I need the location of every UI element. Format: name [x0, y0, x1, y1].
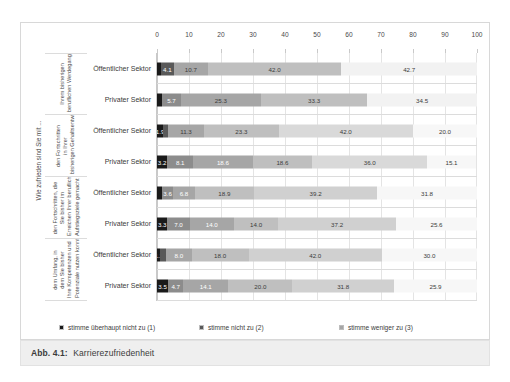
sector-label: Privater Sektor [87, 146, 157, 177]
bar-segment[interactable]: 34.5 [367, 93, 477, 106]
bar-segment[interactable]: 31.8 [292, 279, 394, 292]
bar-segment[interactable]: 14.0 [190, 217, 234, 230]
bar-segment[interactable]: 25.6 [396, 217, 477, 230]
x-axis-tick-label: 50 [313, 31, 320, 38]
x-axis-tick-label: 90 [441, 31, 448, 38]
x-axis: 0102030405060708090100 [157, 29, 477, 53]
bar-segment[interactable]: 3.5 [157, 279, 168, 292]
bar-segment[interactable]: 37.2 [278, 217, 396, 230]
bar-segment[interactable]: 6.8 [173, 186, 194, 199]
table-row: 1.911.323.342.020.0 [157, 115, 477, 146]
stacked-bar[interactable]: 3.28.118.618.636.015.1 [157, 155, 477, 168]
bar-segment[interactable]: 10.7 [174, 62, 208, 75]
x-axis-tick-label: 70 [377, 31, 384, 38]
stacked-bar[interactable]: 5.725.333.334.5 [157, 93, 477, 106]
bar-segment[interactable]: 31.8 [377, 186, 477, 199]
bar-segment[interactable]: 33.3 [261, 93, 367, 106]
stacked-bar[interactable]: 1.911.323.342.020.0 [157, 124, 477, 137]
x-axis-tick-label: 20 [217, 31, 224, 38]
x-axis-tick-label: 30 [249, 31, 256, 38]
bar-segment[interactable]: 42.7 [341, 62, 477, 75]
legend-label: stimme überhaupt nicht zu (1) [68, 324, 155, 331]
bar-segment[interactable]: 14.0 [234, 217, 278, 230]
category-label: dem Umfang, indem Sie bisherIhre Kompete… [45, 239, 87, 301]
bar-segment[interactable]: 3.2 [157, 155, 167, 168]
category-label: den Fortschrittenin Ihrerbisherigen Geha… [45, 115, 87, 177]
table-row: 3.28.118.618.636.015.1 [157, 146, 477, 177]
bar-segment[interactable]: 3.3 [157, 217, 167, 230]
plot-area: 0102030405060708090100 4.110.742.042.75.… [157, 29, 477, 301]
category-label-text: dem Umfang, indem Sie bisherIhre Kompete… [52, 242, 81, 298]
bar-segment[interactable]: 42.0 [249, 248, 382, 261]
sector-label: Öffentlicher Sektor [87, 177, 157, 208]
bar-segment[interactable]: 36.0 [312, 155, 427, 168]
bar-segment[interactable]: 39.2 [254, 186, 377, 199]
legend-item[interactable]: stimme nicht zu (2) [199, 319, 339, 336]
table-row: 3.66.818.939.231.8 [157, 177, 477, 208]
bar-segment[interactable]: 8.0 [166, 248, 191, 261]
figure-page: Wie zufrieden sind Sie mit ... Ihrem bis… [0, 0, 510, 382]
bar-segment[interactable]: 18.9 [195, 186, 254, 199]
legend-swatch [59, 325, 64, 330]
sector-label: Privater Sektor [87, 84, 157, 115]
table-row: 3.37.014.014.037.225.6 [157, 208, 477, 239]
legend-label: stimme weniger zu (3) [348, 324, 413, 331]
bar-segment[interactable]: 23.3 [204, 124, 279, 137]
category-label-text: den Fortschritten, dieSie bisher imErrei… [52, 180, 81, 236]
bar-segment[interactable]: 4.1 [161, 62, 174, 75]
legend-item[interactable]: stimme überhaupt nicht zu (1) [59, 319, 199, 336]
x-axis-tick-label: 100 [471, 31, 482, 38]
sector-label: Öffentlicher Sektor [87, 239, 157, 270]
legend-swatch [199, 325, 204, 330]
stacked-bar-chart: Wie zufrieden sind Sie mit ... Ihrem bis… [29, 29, 481, 301]
x-axis-tick-label: 80 [409, 31, 416, 38]
table-row: 1.18.018.042.030.0 [157, 239, 477, 270]
bar-segment[interactable]: 15.1 [427, 155, 475, 168]
bar-segment[interactable]: 20.0 [228, 279, 292, 292]
bar-segment[interactable]: 18.6 [193, 155, 253, 168]
sector-label: Öffentlicher Sektor [87, 53, 157, 84]
bar-segment[interactable]: 18.0 [192, 248, 249, 261]
category-label-column: Ihrem bisherigenberuflichen Werdegang?de… [45, 53, 87, 301]
stacked-bar[interactable]: 4.110.742.042.7 [157, 62, 477, 75]
stacked-bar[interactable]: 3.54.714.120.031.825.9 [157, 279, 477, 292]
legend-item[interactable]: stimme weniger zu (3) [339, 319, 479, 336]
stacked-bar[interactable]: 3.66.818.939.231.8 [157, 186, 477, 199]
bar-segment[interactable]: 5.7 [162, 93, 180, 106]
table-row: 3.54.714.120.031.825.9 [157, 270, 477, 301]
bar-segment[interactable]: 14.1 [183, 279, 228, 292]
sector-label-column: Öffentlicher SektorPrivater SektorÖffent… [87, 53, 157, 301]
category-label-text: Ihrem bisherigenberuflichen Werdegang? [59, 56, 73, 112]
x-axis-tick-mark [477, 49, 478, 53]
caption-prefix: Abb. 4.1: [31, 348, 68, 358]
x-axis-tick-label: 0 [155, 31, 159, 38]
caption-title: Karrierezufriedenheit [73, 348, 154, 358]
bar-segment[interactable]: 11.3 [168, 124, 204, 137]
bar-segment[interactable]: 20.0 [413, 124, 477, 137]
bar-segment[interactable]: 30.0 [382, 248, 477, 261]
sector-label: Öffentlicher Sektor [87, 115, 157, 146]
x-axis-tick-label: 10 [185, 31, 192, 38]
sector-label: Privater Sektor [87, 208, 157, 239]
caption-text: Abb. 4.1: Karrierezufriedenheit [31, 348, 154, 358]
bar-segment[interactable]: 7.0 [167, 217, 189, 230]
bar-rows: 4.110.742.042.75.725.333.334.51.911.323.… [157, 53, 477, 301]
bar-segment[interactable]: 8.1 [167, 155, 193, 168]
sector-label: Privater Sektor [87, 270, 157, 301]
bar-segment[interactable]: 3.6 [162, 186, 173, 199]
x-axis-tick-label: 40 [281, 31, 288, 38]
stacked-bar[interactable]: 3.37.014.014.037.225.6 [157, 217, 477, 230]
bar-segment[interactable]: 42.0 [279, 124, 413, 137]
outer-group-label-text: Wie zufrieden sind Sie mit ... [35, 66, 42, 256]
bar-segment[interactable]: 25.3 [181, 93, 262, 106]
category-label: Ihrem bisherigenberuflichen Werdegang? [45, 53, 87, 115]
table-row: 5.725.333.334.5 [157, 84, 477, 115]
bar-segment[interactable]: 4.7 [168, 279, 183, 292]
bar-segment[interactable]: 25.9 [394, 279, 477, 292]
legend-swatch [339, 325, 344, 330]
bar-segment[interactable]: 18.6 [253, 155, 313, 168]
outer-group-label: Wie zufrieden sind Sie mit ... [29, 29, 45, 301]
stacked-bar[interactable]: 1.18.018.042.030.0 [157, 248, 477, 261]
table-row: 4.110.742.042.7 [157, 53, 477, 84]
bar-segment[interactable]: 42.0 [208, 62, 341, 75]
